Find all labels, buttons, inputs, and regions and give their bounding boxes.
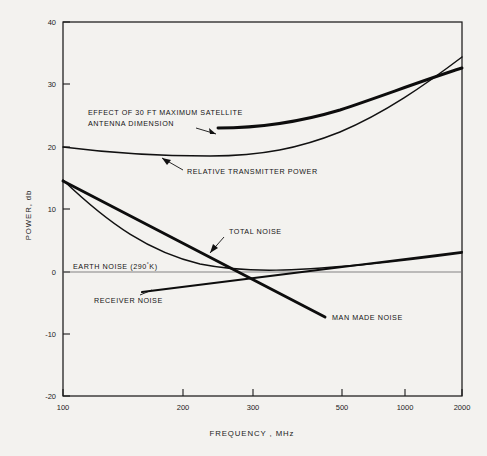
power-vs-frequency-chart: 40 30 20 10 0 -10 -20 POWER, db 100 200 … <box>0 0 487 456</box>
x-tick-label: 500 <box>336 403 349 412</box>
man-made-noise-label: MAN MADE NOISE <box>332 313 403 322</box>
y-tick-label: 0 <box>52 268 56 277</box>
y-tick-label: -20 <box>45 392 56 401</box>
x-tick-label: 100 <box>57 403 70 412</box>
y-tick-label: 30 <box>48 80 56 89</box>
satellite-antenna-annotation-line2: ANTENNA DIMENSION <box>88 119 174 128</box>
satellite-antenna-annotation-line1: EFFECT OF 30 FT MAXIMUM SATELLITE <box>88 108 243 117</box>
x-tick-label: 2000 <box>454 403 471 412</box>
y-tick-label: 20 <box>48 143 56 152</box>
earth-noise-label: EARTH NOISE (290°K) <box>73 261 158 271</box>
y-tick-label: 10 <box>48 205 56 214</box>
earth-noise-suffix: K) <box>149 262 157 271</box>
y-axis-title: POWER, db <box>24 190 33 241</box>
y-tick-label: 40 <box>48 18 56 27</box>
y-tick-label: -10 <box>45 330 56 339</box>
x-tick-label: 1000 <box>397 403 414 412</box>
earth-noise-prefix: EARTH NOISE (290 <box>73 262 147 271</box>
receiver-noise-label: RECEIVER NOISE <box>94 296 163 305</box>
chart-figure: 40 30 20 10 0 -10 -20 POWER, db 100 200 … <box>0 0 487 456</box>
x-tick-label: 200 <box>177 403 190 412</box>
total-noise-label: TOTAL NOISE <box>229 227 282 236</box>
relative-transmitter-power-label: RELATIVE TRANSMITTER POWER <box>187 167 318 176</box>
x-tick-label: 300 <box>247 403 260 412</box>
x-axis-title: FREQUENCY , MHz <box>210 429 295 438</box>
